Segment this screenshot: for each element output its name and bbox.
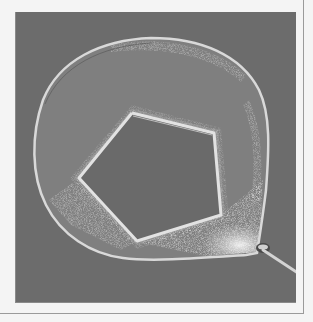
photograph: Photograph of a soap film spanning a wir…: [15, 12, 296, 303]
wire-handle: [263, 250, 296, 275]
frame-border-bottom: [0, 313, 304, 314]
soap-film-illustration: [15, 12, 296, 303]
frame-border-right: [303, 0, 304, 314]
